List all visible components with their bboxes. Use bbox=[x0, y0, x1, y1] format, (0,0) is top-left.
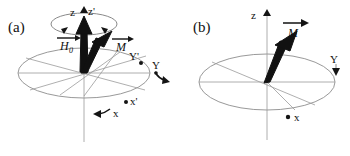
z-axis-arrowhead bbox=[80, 6, 88, 13]
panel-a-x-label: x bbox=[113, 107, 119, 119]
x-prime-marker-dot bbox=[124, 100, 128, 104]
precession-arrowhead-left bbox=[61, 27, 68, 34]
panel-b-y-label: Y bbox=[330, 53, 338, 65]
h0-overline-arrowhead bbox=[75, 35, 81, 41]
panel-a-y-prime-label: Y' bbox=[129, 50, 139, 62]
panel-b-tag: (b) bbox=[193, 19, 211, 36]
m-vector-symbol: M bbox=[115, 40, 127, 54]
h0-vector-subscript: 0 bbox=[69, 46, 73, 55]
figure-container: (a) z z' H 0 bbox=[0, 0, 350, 156]
h0-vector-arrowhead bbox=[76, 16, 92, 34]
panel-a-tag: (a) bbox=[8, 19, 25, 36]
y-marker-dot bbox=[154, 71, 158, 75]
panel-a-x-prime-label: x' bbox=[130, 95, 138, 107]
panel-b: (b) z M Y x bbox=[175, 0, 350, 156]
panel-b-z-label: z bbox=[251, 9, 256, 21]
panel-b-x-label: x bbox=[294, 111, 300, 123]
m-vector-symbol: M bbox=[287, 26, 299, 40]
m-overline-arrowhead bbox=[128, 36, 134, 42]
z-axis-arrowhead bbox=[263, 9, 271, 16]
panel-a-z-label: z bbox=[70, 6, 75, 18]
x-marker-dot bbox=[286, 115, 290, 119]
y-rotation-arrowhead bbox=[162, 76, 170, 84]
h0-vector-label-group: H 0 bbox=[57, 35, 81, 55]
x-rotation-arrowhead bbox=[93, 110, 101, 118]
panel-a: (a) z z' H 0 bbox=[0, 0, 175, 156]
panel-a-z-prime-label: z' bbox=[88, 5, 95, 17]
y-prime-marker-dot bbox=[139, 61, 143, 65]
m-overline-arrowhead bbox=[301, 19, 309, 27]
panel-a-y-label: Y bbox=[152, 59, 160, 71]
in-plane-axis-line-3 bbox=[267, 82, 295, 110]
